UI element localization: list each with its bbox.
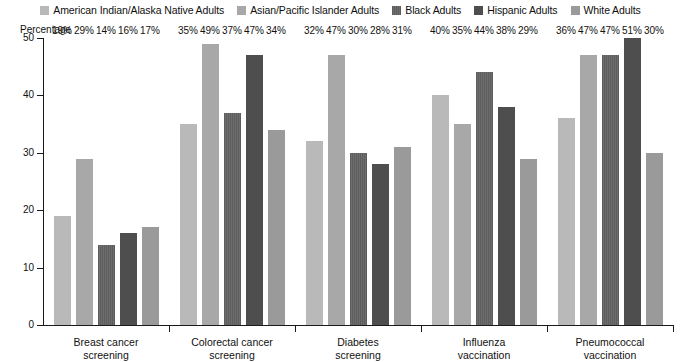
bar-item[interactable]: 38% — [498, 38, 515, 325]
plot-area: 01020304050 19%29%14%16%17%35%49%37%47%3… — [43, 38, 673, 325]
legend-item-label: Hispanic Adults — [487, 5, 557, 16]
bar-value-label: 36% — [556, 25, 576, 36]
bar-item[interactable]: 14% — [98, 38, 115, 325]
bar-item[interactable]: 32% — [306, 38, 323, 325]
bar[interactable]: 35% — [180, 124, 197, 325]
y-axis-tick-label: 40 — [23, 89, 34, 100]
category-tick — [169, 325, 170, 332]
bar-item[interactable]: 35% — [454, 38, 471, 325]
legend-swatch-icon — [474, 6, 483, 15]
bar-value-label: 29% — [74, 25, 94, 36]
bar-item[interactable]: 30% — [646, 38, 663, 325]
bar-item[interactable]: 47% — [328, 38, 345, 325]
bar[interactable]: 17% — [142, 227, 159, 325]
category-tick — [295, 325, 296, 332]
bar[interactable]: 37% — [224, 113, 241, 325]
category-tick — [673, 325, 674, 332]
category-tick — [421, 325, 422, 332]
bar-item[interactable]: 29% — [520, 38, 537, 325]
bar[interactable]: 30% — [350, 153, 367, 325]
bar[interactable]: 49% — [202, 44, 219, 325]
bar[interactable]: 28% — [372, 164, 389, 325]
bar-value-label: 38% — [496, 25, 516, 36]
bar-item[interactable]: 51% — [624, 38, 641, 325]
bar[interactable]: 29% — [520, 159, 537, 325]
bar-item[interactable]: 28% — [372, 38, 389, 325]
y-axis-tick-label: 0 — [28, 319, 34, 330]
category-label: Pneumococcal vaccination — [547, 336, 673, 362]
bar-item[interactable]: 49% — [202, 38, 219, 325]
bar-value-label: 47% — [600, 25, 620, 36]
bar-group-bars: 40%35%44%38%29% — [421, 38, 547, 325]
bar[interactable]: 35% — [454, 124, 471, 325]
bar[interactable]: 31% — [394, 147, 411, 325]
y-axis-tick-label: 50 — [23, 32, 34, 43]
category-label: Breast cancer screening — [43, 336, 169, 362]
legend-item-label: Asian/Pacific Islander Adults — [250, 5, 379, 16]
bar-value-label: 17% — [140, 25, 160, 36]
y-axis-tick-label: 30 — [23, 147, 34, 158]
legend-item: Hispanic Adults — [474, 5, 557, 16]
bar-value-label: 49% — [200, 25, 220, 36]
bar-item[interactable]: 47% — [246, 38, 263, 325]
category-label: Influenza vaccination — [421, 336, 547, 362]
bar-item[interactable]: 30% — [350, 38, 367, 325]
bar-item[interactable]: 34% — [268, 38, 285, 325]
legend-item: American Indian/Alaska Native Adults — [40, 5, 224, 16]
bar-group: 19%29%14%16%17% — [43, 38, 169, 325]
bar-chart: American Indian/Alaska Native AdultsAsia… — [0, 0, 681, 362]
bar-value-label: 51% — [622, 25, 642, 36]
bar-group-bars: 32%47%30%28%31% — [295, 38, 421, 325]
bar-group-bars: 35%49%37%47%34% — [169, 38, 295, 325]
bar-value-label: 44% — [474, 25, 494, 36]
bar-item[interactable]: 16% — [120, 38, 137, 325]
bar-value-label: 30% — [644, 25, 664, 36]
bar[interactable]: 30% — [646, 153, 663, 325]
bar[interactable]: 51% — [624, 38, 641, 325]
legend-swatch-icon — [392, 6, 401, 15]
bar-value-label: 34% — [266, 25, 286, 36]
bar[interactable]: 47% — [580, 55, 597, 325]
bar-item[interactable]: 40% — [432, 38, 449, 325]
bar-value-label: 40% — [430, 25, 450, 36]
bar-item[interactable]: 47% — [580, 38, 597, 325]
bar-item[interactable]: 19% — [54, 38, 71, 325]
bar-value-label: 16% — [118, 25, 138, 36]
bar-value-label: 30% — [348, 25, 368, 36]
bar-item[interactable]: 44% — [476, 38, 493, 325]
bar-item[interactable]: 31% — [394, 38, 411, 325]
bar-item[interactable]: 35% — [180, 38, 197, 325]
bar-item[interactable]: 29% — [76, 38, 93, 325]
legend-swatch-icon — [40, 6, 49, 15]
y-axis-tick: 0 — [37, 325, 43, 326]
bar[interactable]: 29% — [76, 159, 93, 325]
legend-item: Black Adults — [392, 5, 461, 16]
bar-value-label: 47% — [578, 25, 598, 36]
bar-item[interactable]: 17% — [142, 38, 159, 325]
bar[interactable]: 40% — [432, 95, 449, 325]
bar-value-label: 35% — [178, 25, 198, 36]
bar[interactable]: 32% — [306, 141, 323, 325]
bar-value-label: 14% — [96, 25, 116, 36]
bar[interactable]: 19% — [54, 216, 71, 325]
bar[interactable]: 47% — [246, 55, 263, 325]
category-tick — [547, 325, 548, 332]
bar[interactable]: 16% — [120, 233, 137, 325]
x-axis-line — [43, 325, 673, 326]
bar-group-bars: 19%29%14%16%17% — [43, 38, 169, 325]
legend-swatch-icon — [571, 6, 580, 15]
bar[interactable]: 44% — [476, 72, 493, 325]
bar-value-label: 47% — [326, 25, 346, 36]
category-label: Diabetes screening — [295, 336, 421, 362]
bar-item[interactable]: 36% — [558, 38, 575, 325]
bar-group: 32%47%30%28%31% — [295, 38, 421, 325]
bar-value-label: 28% — [370, 25, 390, 36]
bar[interactable]: 36% — [558, 118, 575, 325]
bar[interactable]: 47% — [602, 55, 619, 325]
bar[interactable]: 47% — [328, 55, 345, 325]
bar-item[interactable]: 47% — [602, 38, 619, 325]
bar[interactable]: 14% — [98, 245, 115, 325]
bar[interactable]: 38% — [498, 107, 515, 325]
bar-item[interactable]: 37% — [224, 38, 241, 325]
bar[interactable]: 34% — [268, 130, 285, 325]
